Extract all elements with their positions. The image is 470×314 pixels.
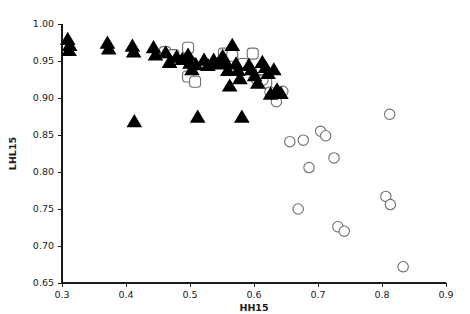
series-open-circles — [251, 74, 408, 272]
marker-circle — [329, 153, 339, 163]
y-tick-label: 0.90 — [33, 92, 54, 103]
x-axis-title: HH15 — [239, 302, 268, 313]
x-tick-label: 0.6 — [246, 289, 261, 300]
marker-triangle — [234, 110, 250, 123]
y-tick-label: 0.65 — [33, 277, 54, 288]
y-tick-label: 0.75 — [33, 203, 54, 214]
y-tick-label: 0.70 — [33, 240, 54, 251]
y-tick-label: 0.85 — [33, 129, 54, 140]
marker-circle — [398, 262, 408, 272]
scatter-chart: 0.650.700.750.800.850.900.951.000.30.40.… — [0, 0, 470, 314]
y-axis-title: LHL15 — [7, 137, 18, 170]
x-tick-label: 0.5 — [182, 289, 197, 300]
marker-circle — [339, 226, 349, 236]
marker-rounded-square — [247, 48, 258, 59]
axis-spines — [62, 24, 446, 283]
y-tick-label: 0.80 — [33, 166, 54, 177]
marker-circle — [298, 135, 308, 145]
marker-circle — [285, 136, 295, 146]
x-tick-label: 0.7 — [310, 289, 325, 300]
marker-triangle — [126, 114, 142, 127]
x-tick-label: 0.9 — [438, 289, 453, 300]
data-markers — [60, 32, 408, 272]
y-tick-label: 0.95 — [33, 55, 54, 66]
x-tick-label: 0.3 — [54, 289, 69, 300]
marker-circle — [304, 162, 314, 172]
y-tick-label: 1.00 — [33, 18, 54, 29]
marker-rounded-square — [190, 76, 201, 87]
marker-circle — [293, 204, 303, 214]
series-filled-triangles — [60, 32, 289, 127]
x-tick-label: 0.8 — [374, 289, 389, 300]
marker-triangle — [190, 110, 206, 123]
marker-circle — [385, 199, 395, 209]
x-tick-label: 0.4 — [118, 289, 133, 300]
plot-area: 0.650.700.750.800.850.900.951.000.30.40.… — [0, 0, 470, 314]
axis-frame — [62, 24, 446, 283]
marker-circle — [384, 109, 394, 119]
marker-circle — [320, 131, 330, 141]
marker-triangle — [224, 38, 240, 51]
